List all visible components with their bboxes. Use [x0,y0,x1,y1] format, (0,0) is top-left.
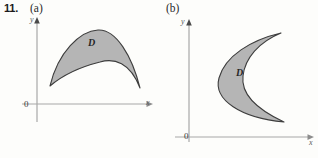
figure-panel-b: (b) y x 0 D [159,0,318,158]
shaded-region-b [218,33,284,122]
origin-label-b: 0 [184,131,189,141]
figure-panel-a: 11. (a) y x 0 D [0,0,159,158]
panel-a-graph [0,0,159,158]
y-axis-arrow-b [186,19,192,26]
textbook-figure: 11. (a) y x 0 D (b) y [0,0,318,158]
y-axis-arrow-a [34,17,40,24]
y-axis-label-b: y [181,17,185,26]
x-axis-label-a: x [146,98,150,107]
origin-label-a: 0 [24,99,29,109]
y-axis-label-a: y [30,15,34,24]
region-label-b: D [236,67,243,78]
region-label-a: D [88,37,95,48]
x-axis-label-b: x [309,138,313,147]
